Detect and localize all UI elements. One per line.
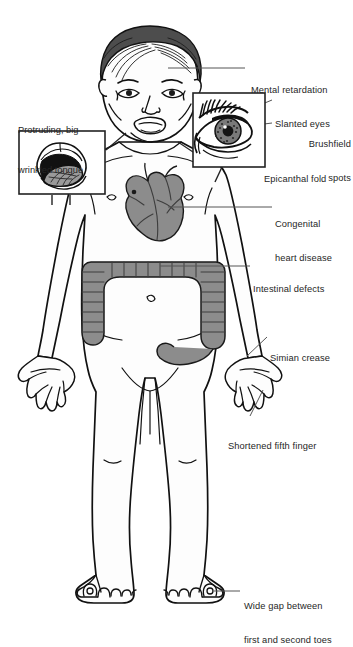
callout-heart-line-1: Congenital (275, 219, 332, 230)
callout-brushfield-spots-line-1: Brushfield (275, 139, 351, 150)
callout-intestinal-defects: Intestinal defects (253, 261, 324, 318)
callout-toe-gap-line-1: Wide gap between (244, 601, 332, 612)
callout-simian-crease: Simian crease (270, 330, 330, 387)
tongue-caption-line-2: wrinkled tongue (18, 164, 110, 177)
callout-mental-retardation-line-1: Mental retardation (251, 85, 328, 96)
callout-epicanthal-fold-line-1: Epicanthal fold (264, 174, 326, 185)
callout-toe-gap-line-2: first and second toes (244, 635, 332, 646)
callout-simian-crease-line-1: Simian crease (270, 353, 330, 364)
callout-intestinal-defects-line-1: Intestinal defects (253, 284, 324, 295)
callout-fifth-finger-line-1: Shortened fifth finger (228, 441, 316, 452)
callout-shortened-fifth-finger: Shortened fifth finger (228, 418, 316, 475)
tongue-caption-line-1: Protruding, big (18, 124, 110, 137)
tongue-inset-caption: Protruding, big wrinkled tongue (18, 98, 110, 204)
callout-wide-gap-toes: Wide gap between first and second toes (244, 578, 332, 647)
